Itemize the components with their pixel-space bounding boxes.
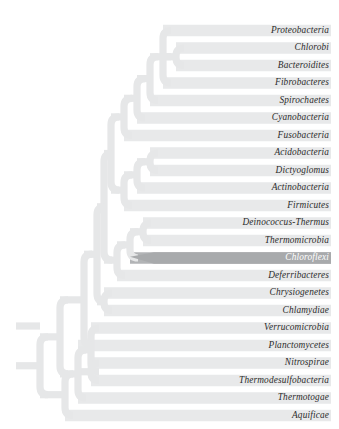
- taxon-label: Spirochaetes: [280, 92, 331, 110]
- taxon-label: Thermomicrobia: [265, 232, 331, 250]
- taxon-label: Chrysiogenetes: [270, 284, 331, 302]
- phylogenetic-tree-figure: ProteobacteriaChlorobiBacteroiditesFibro…: [0, 0, 339, 429]
- taxon-label: Deferribacteres: [268, 267, 331, 285]
- taxon-label: Deinococcus-Thermus: [242, 214, 331, 232]
- taxon-label: Proteobacteria: [271, 22, 331, 40]
- taxon-label: Firmicutes: [287, 197, 331, 215]
- taxon-label: Verrucomicrobia: [264, 319, 331, 337]
- taxon-label: Bacteroidites: [278, 57, 331, 75]
- taxon-label: Actinobacteria: [272, 179, 331, 197]
- taxon-label: Fibrobacteres: [275, 74, 331, 92]
- taxon-label-list: ProteobacteriaChlorobiBacteroiditesFibro…: [0, 0, 339, 429]
- taxon-label: Thermodesulfobacteria: [239, 372, 331, 390]
- taxon-label: Aquificae: [292, 407, 331, 425]
- taxon-label: Chlorobi: [295, 39, 331, 57]
- taxon-label: Dictyoglomus: [276, 162, 331, 180]
- taxon-label: Chlamydiae: [283, 302, 331, 320]
- taxon-label: Planctomycetes: [269, 337, 331, 355]
- taxon-label: Fusobacteria: [278, 127, 331, 145]
- taxon-label: Chloroflexi: [285, 249, 331, 267]
- taxon-label: Acidobacteria: [274, 144, 331, 162]
- taxon-label: Thermotogae: [278, 389, 331, 407]
- taxon-label: Nitrospirae: [285, 354, 331, 372]
- taxon-label: Cyanobacteria: [272, 109, 331, 127]
